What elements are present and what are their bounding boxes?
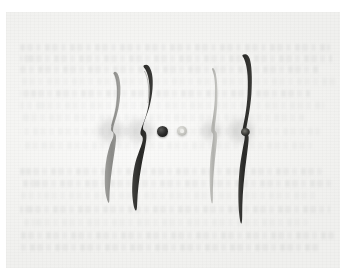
light-prop-nut <box>177 126 187 136</box>
propeller-dark-right <box>222 50 262 230</box>
paper-background <box>6 12 340 268</box>
photo-scene <box>0 0 346 278</box>
paper-grain-texture <box>6 12 340 268</box>
dark-prop-nut <box>157 126 168 137</box>
propeller-dark-inner-left <box>120 60 162 218</box>
